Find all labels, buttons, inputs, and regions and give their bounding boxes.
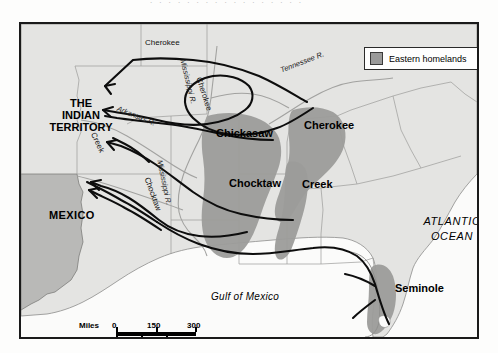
scale-number-miles-150: 150 <box>147 321 160 330</box>
map-graphic <box>21 24 477 337</box>
legend-label-eastern-homelands: Eastern homelands <box>389 54 467 64</box>
scale-tick-km-0 <box>116 336 118 339</box>
map-scale-bar: Miles Km 0 150 300 0 150 300 <box>79 321 199 339</box>
page-artifact-text: . . . . . . . . . . . . . . . . . <box>150 0 303 5</box>
map-figure: Eastern homelands THE INDIAN TERRITORY M… <box>19 22 479 339</box>
scale-tick-km-150 <box>141 336 143 339</box>
scale-tick-km-300 <box>166 336 168 339</box>
page-scan-artifact: . . . . . . . . . . . . . . . . . <box>0 0 498 12</box>
scale-axis-line <box>116 332 196 336</box>
legend-swatch-eastern-homelands <box>370 52 383 65</box>
scale-number-miles-0: 0 <box>112 321 116 330</box>
scale-label-miles: Miles <box>79 321 99 330</box>
map-legend: Eastern homelands <box>364 47 479 70</box>
page-root: . . . . . . . . . . . . . . . . . <box>0 0 498 353</box>
scale-number-miles-300: 300 <box>187 321 200 330</box>
